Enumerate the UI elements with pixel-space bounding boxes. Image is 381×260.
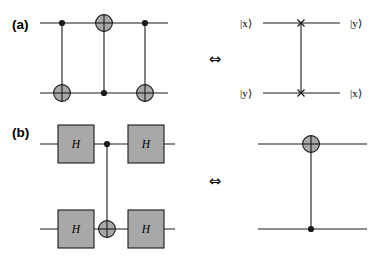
figure-canvas: (a)	[0, 0, 381, 260]
input-label-bottom: |y⟩	[240, 87, 252, 99]
gate-label: H	[71, 138, 81, 150]
input-label-top: |x⟩	[240, 17, 252, 29]
output-label-bottom: |x⟩	[350, 87, 362, 99]
control-dot-icon	[104, 141, 110, 147]
target-circle-icon	[54, 85, 71, 102]
equivalence-symbol-b: ⇔	[209, 172, 222, 190]
panel-b-label: (b)	[12, 125, 29, 140]
hadamard-gate-bottom-right: H	[128, 210, 164, 248]
target-circle-icon	[137, 85, 154, 102]
control-dot-icon	[308, 226, 314, 232]
target-circle-icon	[96, 15, 113, 32]
control-dot-icon	[59, 20, 65, 26]
target-circle-icon	[99, 221, 116, 238]
target-circle-icon	[303, 136, 320, 153]
control-dot-icon	[142, 20, 148, 26]
hadamard-gate-top-right: H	[128, 125, 164, 163]
hadamard-gate-top-left: H	[58, 125, 94, 163]
gate-label: H	[141, 138, 151, 150]
quantum-circuit-figure: (a)	[0, 0, 381, 260]
hadamard-gate-bottom-left: H	[58, 210, 94, 248]
figure-background	[0, 0, 381, 260]
gate-label: H	[71, 223, 81, 235]
output-label-top: |y⟩	[350, 17, 362, 29]
equivalence-symbol-a: ⇔	[209, 50, 222, 68]
gate-label: H	[141, 223, 151, 235]
panel-a-label: (a)	[12, 17, 29, 32]
control-dot-icon	[101, 90, 107, 96]
